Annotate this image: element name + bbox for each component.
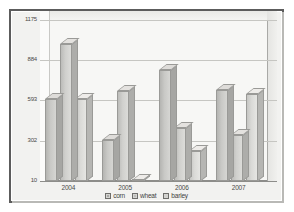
bar-front-face [132,179,144,181]
bar-side-face [186,124,192,181]
bar-side-face [129,86,135,181]
bar-side-face [228,85,234,181]
bar-side-face [243,131,249,181]
bar-corn-2005[interactable] [102,140,114,181]
y-axis-tick-label: 10 [11,177,37,184]
chart-legend: cornwheatbarley [11,192,282,199]
bar-barley-2005[interactable] [132,180,144,181]
series-2-swatch [163,193,169,199]
y-axis-tick-label: 593 [11,96,37,103]
y-axis-tick-label: 1175 [11,16,37,23]
legend-item-corn[interactable]: corn [105,192,125,199]
bar-side-face [87,95,93,181]
y-axis-tick-label: 302 [11,137,37,144]
bar-side-face [72,39,78,181]
legend-label: barley [171,192,188,199]
bar-side-face [114,135,120,181]
bar-front-face [102,140,114,181]
gridline [40,181,277,182]
bar-front-face [45,99,57,181]
chart-frame: 117588459330210 2004200520062007 cornwhe… [9,9,284,203]
bar-side-face [171,66,177,181]
x-axis-tick-label-2006: 2006 [154,184,211,192]
bar-corn-2004[interactable] [45,99,57,181]
bar-side-face [201,146,207,181]
bar-side-face [57,95,63,181]
chart-figure: 117588459330210 2004200520062007 cornwhe… [0,0,294,212]
bar-corn-2007[interactable] [216,90,228,181]
legend-item-wheat[interactable]: wheat [132,192,156,199]
bar-front-face [216,90,228,181]
legend-item-barley[interactable]: barley [163,192,188,199]
plot-back-wall-top [40,11,267,20]
bar-side-face [258,89,264,181]
x-axis-tick-label-2007: 2007 [210,184,267,192]
y-axis-tick-label: 884 [11,56,37,63]
plot-wrap: 117588459330210 2004200520062007 cornwhe… [11,11,282,201]
legend-label: wheat [140,192,156,199]
legend-label: corn [113,192,125,199]
x-axis-tick-label-2005: 2005 [97,184,154,192]
gridline [40,20,277,21]
plot-back-wall-side [267,11,277,181]
x-axis-tick-label-2004: 2004 [40,184,97,192]
series-1-swatch [132,193,138,199]
bar-corn-2006[interactable] [159,70,171,181]
bar-front-face [159,70,171,181]
series-0-swatch [105,193,111,199]
